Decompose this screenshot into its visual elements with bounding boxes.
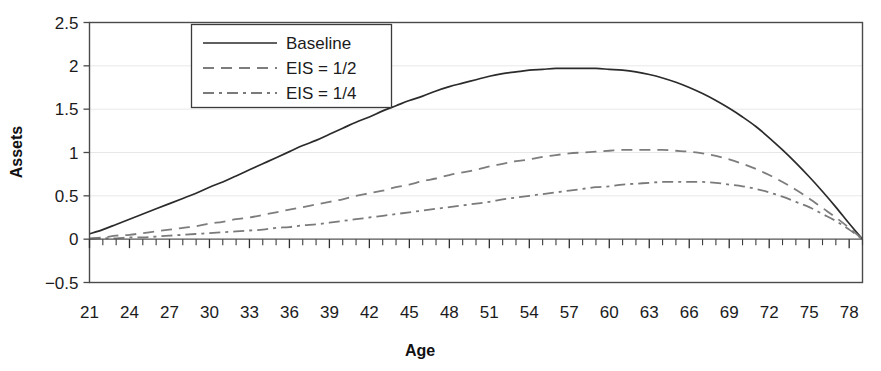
- legend-label-2: EIS = 1/4: [286, 84, 356, 103]
- x-tick-label: 66: [680, 303, 699, 322]
- assets-by-age-line-chart: 2.521.510.50−0.5 21242730333639424548515…: [0, 0, 881, 371]
- x-tick-label: 42: [360, 303, 379, 322]
- x-tick-label: 75: [800, 303, 819, 322]
- x-tick-label: 30: [200, 303, 219, 322]
- x-tick-label: 39: [320, 303, 339, 322]
- x-tick-label: 33: [240, 303, 259, 322]
- x-tick-labels-group: 2124273033363942454851545760636669727578: [80, 303, 859, 322]
- legend-label-1: EIS = 1/2: [286, 59, 356, 78]
- x-tick-label: 69: [720, 303, 739, 322]
- series-line-2: [90, 182, 863, 239]
- y-ticks-group: [84, 23, 90, 283]
- x-tick-label: 72: [760, 303, 779, 322]
- x-tick-label: 60: [600, 303, 619, 322]
- y-tick-label: 1: [69, 144, 78, 163]
- x-tick-label: 36: [280, 303, 299, 322]
- x-tick-label: 45: [400, 303, 419, 322]
- x-tick-label: 21: [80, 303, 99, 322]
- x-tick-label: 27: [160, 303, 179, 322]
- y-tick-label: 0: [69, 230, 78, 249]
- legend-label-0: Baseline: [286, 34, 351, 53]
- x-tick-label: 63: [640, 303, 659, 322]
- y-tick-label: 2: [69, 57, 78, 76]
- y-tick-label: 0.5: [55, 187, 79, 206]
- y-tick-label: 2.5: [55, 14, 79, 33]
- series-line-1: [90, 150, 863, 239]
- y-axis-title: Assets: [8, 126, 25, 179]
- x-tick-label: 24: [120, 303, 139, 322]
- x-tick-label: 51: [480, 303, 499, 322]
- x-ticks-group: [90, 239, 863, 248]
- x-axis-title: Age: [405, 342, 435, 359]
- chart-figure: 2.521.510.50−0.5 21242730333639424548515…: [0, 0, 881, 371]
- x-tick-label: 78: [840, 303, 859, 322]
- x-tick-label: 57: [560, 303, 579, 322]
- legend: BaselineEIS = 1/2EIS = 1/4: [192, 25, 392, 108]
- x-tick-label: 48: [440, 303, 459, 322]
- y-tick-label: −0.5: [45, 274, 79, 293]
- y-tick-labels-group: 2.521.510.50−0.5: [45, 14, 79, 293]
- x-tick-label: 54: [520, 303, 539, 322]
- y-tick-label: 1.5: [55, 100, 79, 119]
